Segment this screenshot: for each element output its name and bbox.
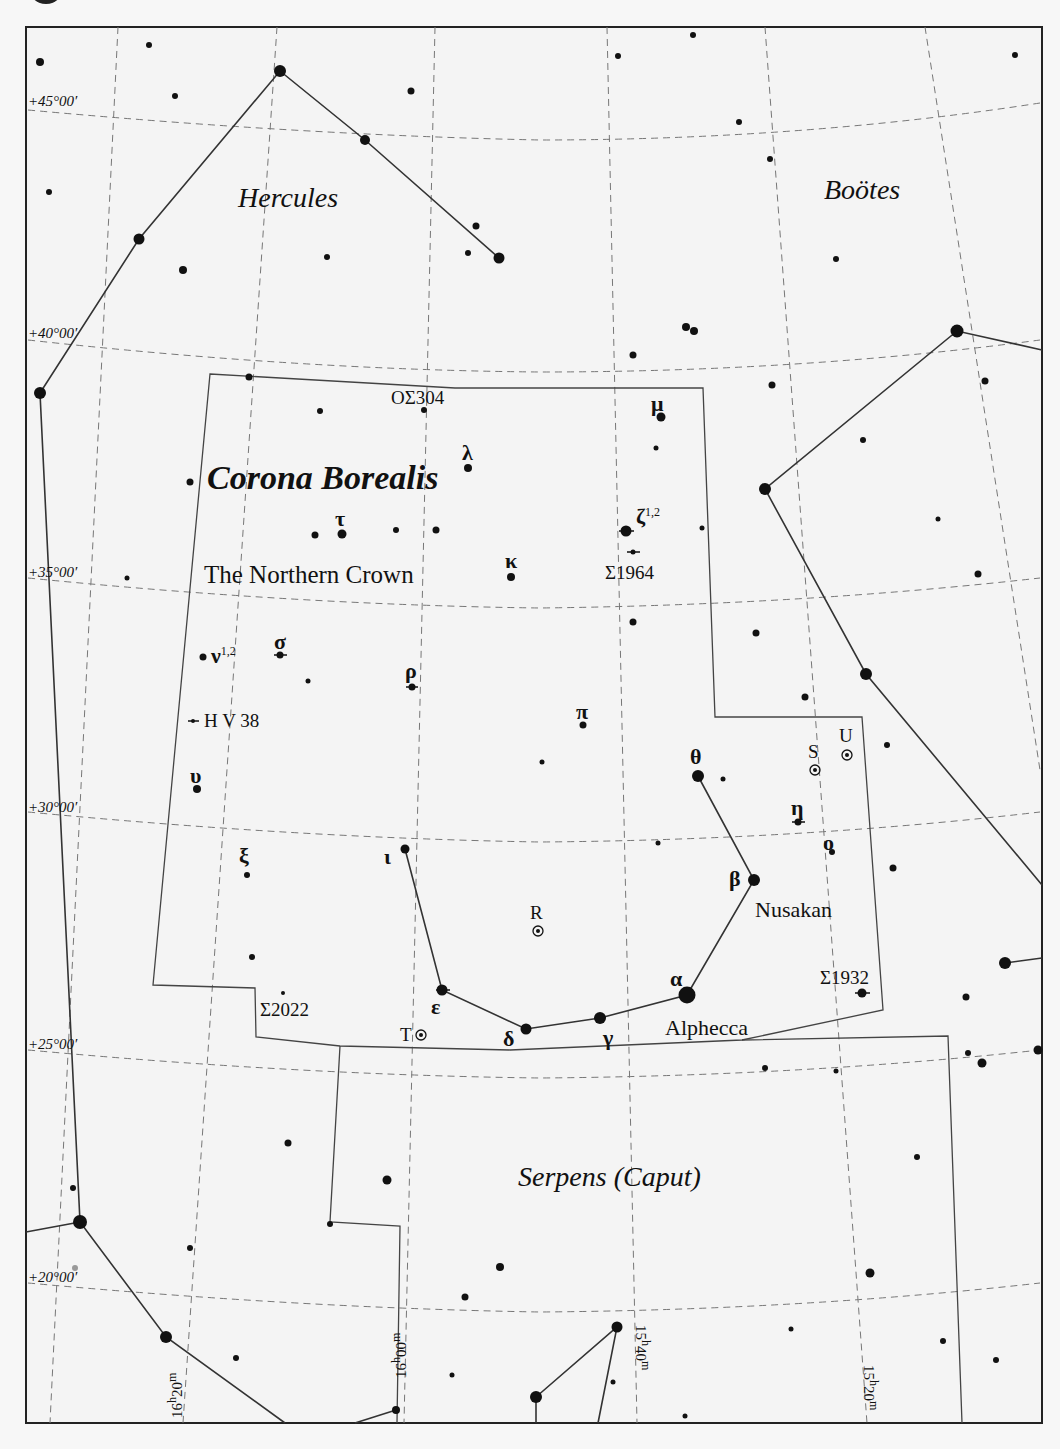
variable-label-u: U (839, 726, 853, 745)
chart-canvas (0, 0, 1060, 1449)
star-label-nu: ν1,2 (211, 645, 236, 667)
double-star-label-s1932: Σ1932 (820, 968, 869, 987)
dec-label-35: +35°00′ (28, 565, 77, 580)
variable-label-r: R (530, 903, 543, 922)
star-label-upsilon: υ (190, 765, 201, 787)
star-label-delta: δ (503, 1028, 514, 1050)
double-star-label-s1964: Σ1964 (605, 563, 654, 582)
constellation-label-hercules: Hercules (238, 184, 338, 212)
double-star-label-os304: OΣ304 (391, 388, 444, 407)
star-label-sigma: σ (274, 631, 286, 653)
star-label-iota: ι (384, 846, 391, 868)
star-label-xi: ξ (239, 845, 249, 867)
variable-label-t: T (400, 1025, 412, 1044)
ra-label-15h20m: 15h20m (861, 1365, 880, 1410)
ra-label-16h20m: 16h20m (166, 1373, 185, 1418)
star-label-mu: μ (651, 393, 663, 415)
star-label-rho: ρ (405, 660, 417, 682)
map-subtitle: The Northern Crown (204, 562, 414, 587)
dec-label-30: +30°00′ (28, 800, 77, 815)
star-label-beta: β (729, 868, 741, 890)
map-frame (26, 27, 1042, 1423)
star-label-theta: θ (690, 746, 701, 768)
star-label-tau: τ (335, 508, 345, 530)
star-name-alphecca: Alphecca (665, 1017, 748, 1039)
double-star-label-hv38: H V 38 (204, 711, 259, 730)
star-label-eta: η (791, 797, 804, 819)
constellation-label-bootes: Boötes (824, 176, 900, 204)
constellation-label-serpens: Serpens (Caput) (518, 1163, 701, 1191)
ra-label-16h00m: 16h00m (390, 1333, 409, 1378)
double-star-label-s2022: Σ2022 (260, 1000, 309, 1019)
dec-label-25: +25°00′ (28, 1037, 77, 1052)
star-label-epsilon: ε (431, 996, 440, 1018)
star-label-zeta: ζ1,2 (636, 506, 660, 528)
star-label-alpha: α (670, 968, 682, 990)
star-label-kappa: κ (505, 550, 517, 572)
variable-label-s: S (808, 742, 819, 761)
star-chart: Hercules Boötes Serpens (Caput) Corona B… (0, 0, 1060, 1449)
star-label-gamma: γ (603, 1027, 613, 1049)
star-label-pi: π (576, 701, 588, 723)
star-label-omicron: ο (823, 832, 834, 854)
dec-label-20: +20°00′ (28, 1270, 77, 1285)
star-name-nusakan: Nusakan (755, 899, 832, 921)
dec-label-45: +45°00′ (28, 94, 77, 109)
ra-label-15h40m: 15h40m (633, 1325, 652, 1370)
map-title: Corona Borealis (207, 461, 438, 495)
star-label-lambda: λ (462, 442, 473, 464)
dec-label-40: +40°00′ (28, 326, 77, 341)
